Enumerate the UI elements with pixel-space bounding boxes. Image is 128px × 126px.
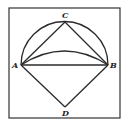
- square-frame: [9, 8, 120, 118]
- point-label-b: B: [109, 60, 117, 70]
- point-label-a: A: [11, 60, 18, 70]
- point-label-c: C: [62, 10, 69, 20]
- geometry-diagram: A B C D: [0, 0, 128, 126]
- segment-ad: [21, 65, 65, 107]
- segment-cb: [65, 22, 108, 65]
- segment-db: [65, 65, 108, 107]
- segment-ac: [21, 22, 65, 65]
- point-label-d: D: [61, 108, 69, 118]
